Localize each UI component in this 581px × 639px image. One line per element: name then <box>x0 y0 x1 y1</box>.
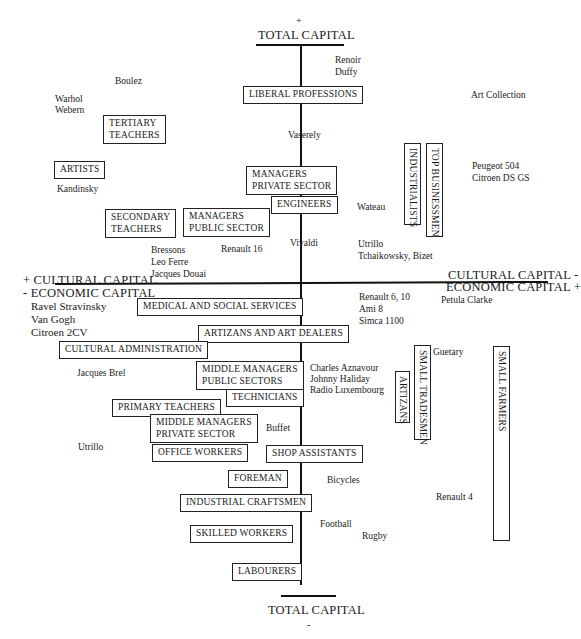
box-foreman: FOREMAN <box>228 470 288 488</box>
label-duffy: Duffy <box>335 66 358 78</box>
box-small-tradesmen: SMALL TRADESMEN <box>414 345 431 440</box>
box-engineers: ENGINEERS <box>271 196 338 214</box>
label-citroen-ds-gs: Citroen DS GS <box>472 172 530 184</box>
mm-public-line1: MIDDLE MANAGERS <box>202 364 298 376</box>
label-art-collection: Art Collection <box>471 89 526 101</box>
box-liberal-professions: LIBERAL PROFESSIONS <box>243 86 363 104</box>
tertiary-line2: TEACHERS <box>109 130 160 142</box>
label-radio-luxembourg: Radio Luxembourg <box>310 384 384 396</box>
mm-public-line2: PUBLIC SECTORS <box>202 376 298 388</box>
label-boulez: Boulez <box>115 75 142 87</box>
bottom-axis-cap <box>281 595 336 597</box>
box-secondary-teachers: SECONDARY TEACHERS <box>105 209 176 238</box>
box-cultural-administration: CULTURAL ADMINISTRATION <box>59 341 208 359</box>
box-labourers: LABOURERS <box>232 563 302 581</box>
right-axis-label-line2: ECONOMIC CAPITAL + <box>446 280 581 295</box>
label-vivaldi: Vivaldi <box>290 237 318 249</box>
top-businessmen-label: TOP BUSINESSMEN <box>430 148 440 237</box>
label-webern: Webern <box>55 104 84 116</box>
managers-public-line2: PUBLIC SECTOR <box>189 223 264 235</box>
label-utrillo-top: Utrillo <box>358 238 383 250</box>
industrialists-label: INDUSTRIALISTS <box>408 148 418 227</box>
managers-public-line1: MANAGERS <box>189 211 264 223</box>
box-technicians: TECHNICIANS <box>226 389 304 407</box>
top-axis-cap <box>256 44 344 46</box>
small-tradesmen-label: SMALL TRADESMEN <box>418 350 428 445</box>
label-jacques-brel: Jacques Brel <box>77 367 125 379</box>
small-farmers-label: SMALL FARMERS <box>497 351 507 431</box>
label-bressons: Bressons <box>151 244 185 256</box>
label-utrillo-bottom: Utrillo <box>78 441 103 453</box>
label-petula-clarke: Petula Clarke <box>441 294 492 306</box>
label-simca-1100: Simca 1100 <box>359 315 404 327</box>
box-top-businessmen: TOP BUSINESSMEN <box>426 143 443 237</box>
box-small-farmers: SMALL FARMERS <box>493 346 510 541</box>
box-managers-private-sector: MANAGERS PRIVATE SECTOR <box>246 166 337 195</box>
top-plus-sign: + <box>296 15 302 26</box>
box-industrial-craftsmen: INDUSTRIAL CRAFTSMEN <box>180 494 312 512</box>
managers-private-line2: PRIVATE SECTOR <box>252 181 331 193</box>
label-van-gogh: Van Gogh <box>31 313 75 325</box>
box-artists: ARTISTS <box>54 161 105 179</box>
box-office-workers: OFFICE WORKERS <box>152 444 248 462</box>
label-renoir: Renoir <box>335 54 361 66</box>
label-kandinsky: Kandinsky <box>57 183 98 195</box>
label-tchaikowsky-bizet: Tchaikowsky, Bizet <box>358 250 433 262</box>
label-guetary: Guetary <box>433 346 464 358</box>
label-renault-16: Renault 16 <box>221 243 262 255</box>
label-bicycles: Bicycles <box>327 474 360 486</box>
box-skilled-workers: SKILLED WORKERS <box>190 525 293 543</box>
left-axis-label-line2: - ECONOMIC CAPITAL <box>23 286 155 301</box>
bottom-minus-sign: - <box>307 619 310 630</box>
managers-private-line1: MANAGERS <box>252 169 331 181</box>
box-middle-managers-private: MIDDLE MANAGERS PRIVATE SECTOR <box>150 414 258 443</box>
label-football: Football <box>320 518 352 530</box>
label-rugby: Rugby <box>362 530 387 542</box>
label-renault-4: Renault 4 <box>436 491 473 503</box>
label-wateau: Wateau <box>357 201 385 213</box>
top-axis-label: TOTAL CAPITAL <box>258 28 355 43</box>
box-medical-social-services: MEDICAL AND SOCIAL SERVICES <box>137 298 303 316</box>
box-middle-managers-public: MIDDLE MANAGERS PUBLIC SECTORS <box>196 361 304 390</box>
box-artizans-art-dealers: ARTIZANS AND ART DEALERS <box>198 325 349 343</box>
artizans-label: ARTIZANS <box>398 376 408 424</box>
box-managers-public-sector: MANAGERS PUBLIC SECTOR <box>183 208 270 237</box>
label-ravel-stravinsky: Ravel Stravinsky <box>31 300 106 312</box>
secondary-line1: SECONDARY <box>111 212 170 224</box>
mm-private-line2: PRIVATE SECTOR <box>156 429 252 441</box>
tertiary-line1: TERTIARY <box>109 118 160 130</box>
box-tertiary-teachers: TERTIARY TEACHERS <box>103 115 166 144</box>
bottom-axis-label: TOTAL CAPITAL <box>268 603 365 618</box>
label-ami-8: Ami 8 <box>359 303 383 315</box>
label-vaserely: Vaserely <box>288 129 321 141</box>
label-jacques-douai: Jacques Douai <box>151 268 206 280</box>
label-leo-ferre: Leo Ferre <box>151 256 188 268</box>
label-buffet: Buffet <box>266 422 290 434</box>
box-artizans: ARTIZANS <box>395 371 410 423</box>
label-peugeot-504: Peugeot 504 <box>472 160 519 172</box>
box-industrialists: INDUSTRIALISTS <box>404 143 421 225</box>
label-citroen-2cv: Citroen 2CV <box>31 326 88 338</box>
mm-private-line1: MIDDLE MANAGERS <box>156 417 252 429</box>
box-shop-assistants: SHOP ASSISTANTS <box>266 445 363 463</box>
secondary-line2: TEACHERS <box>111 224 170 236</box>
label-renault-6-10: Renault 6, 10 <box>359 291 410 303</box>
